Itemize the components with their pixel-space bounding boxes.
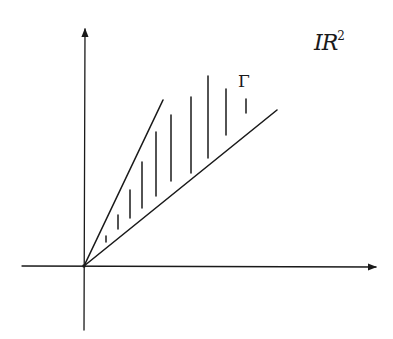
space-label: IR2 [314, 30, 344, 55]
space-label-base: IR [314, 30, 337, 55]
cone-hatching [106, 76, 246, 242]
cone-upper-ray [84, 100, 163, 266]
cone-lower-ray [84, 110, 277, 266]
x-axis [22, 266, 376, 267]
cone-label: Γ [238, 71, 250, 91]
y-axis [84, 29, 85, 330]
space-label-exponent: 2 [337, 29, 344, 43]
origin-point [82, 264, 86, 268]
